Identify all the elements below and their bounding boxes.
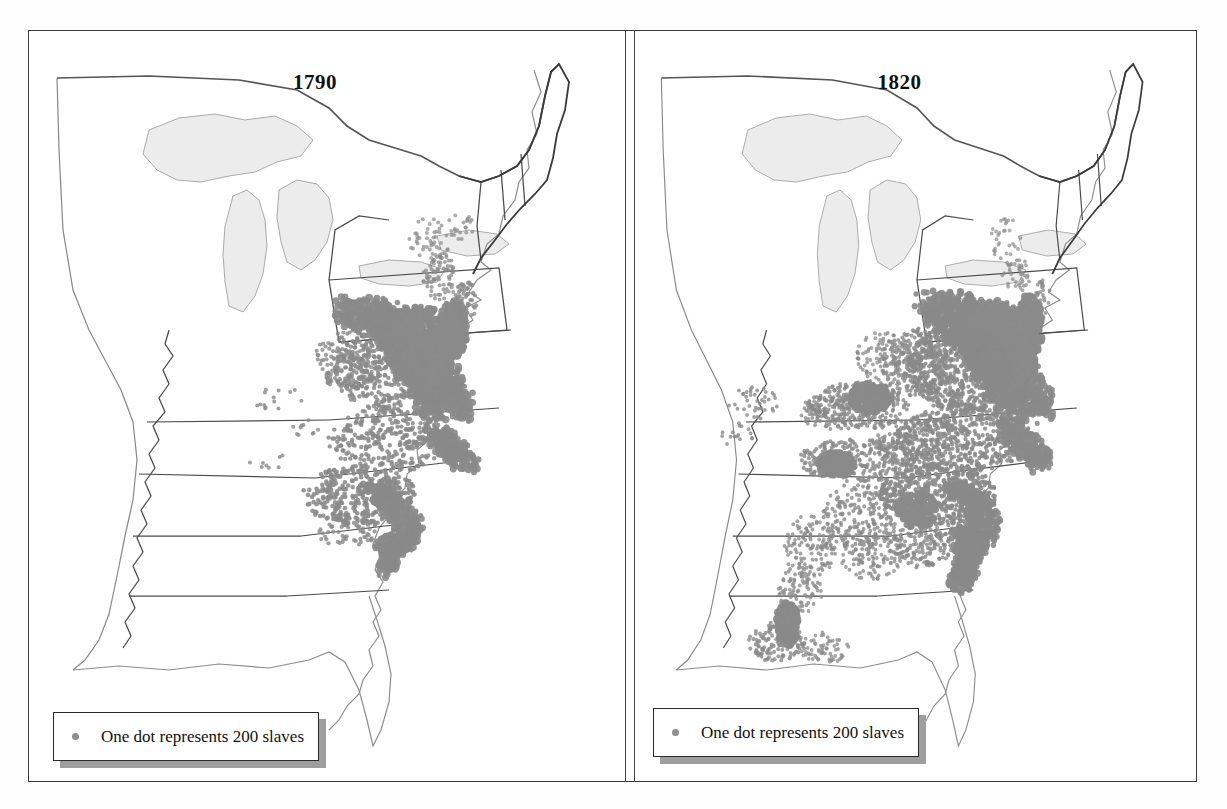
legend-1820: One dot represents 200 slaves (653, 708, 919, 757)
panel-divider-left (625, 30, 626, 782)
legend-dot-icon (72, 733, 79, 740)
legend-dot-icon (672, 729, 679, 736)
map-panel-1790: 1790 One dot represents 200 slaves (29, 30, 625, 782)
map-panel-1820: 1820 One dot represents 200 slaves (635, 30, 1196, 782)
figure-root: 1790 One dot represents 200 slaves 1820 … (0, 0, 1227, 809)
panel-title-1820: 1820 (635, 70, 1180, 95)
map-1790 (29, 30, 625, 782)
panel-title-1790: 1790 (29, 70, 613, 95)
legend-text-1790: One dot represents 200 slaves (101, 727, 304, 747)
legend-1790: One dot represents 200 slaves (53, 712, 319, 761)
map-1820 (635, 30, 1196, 782)
legend-text-1820: One dot represents 200 slaves (701, 723, 904, 743)
